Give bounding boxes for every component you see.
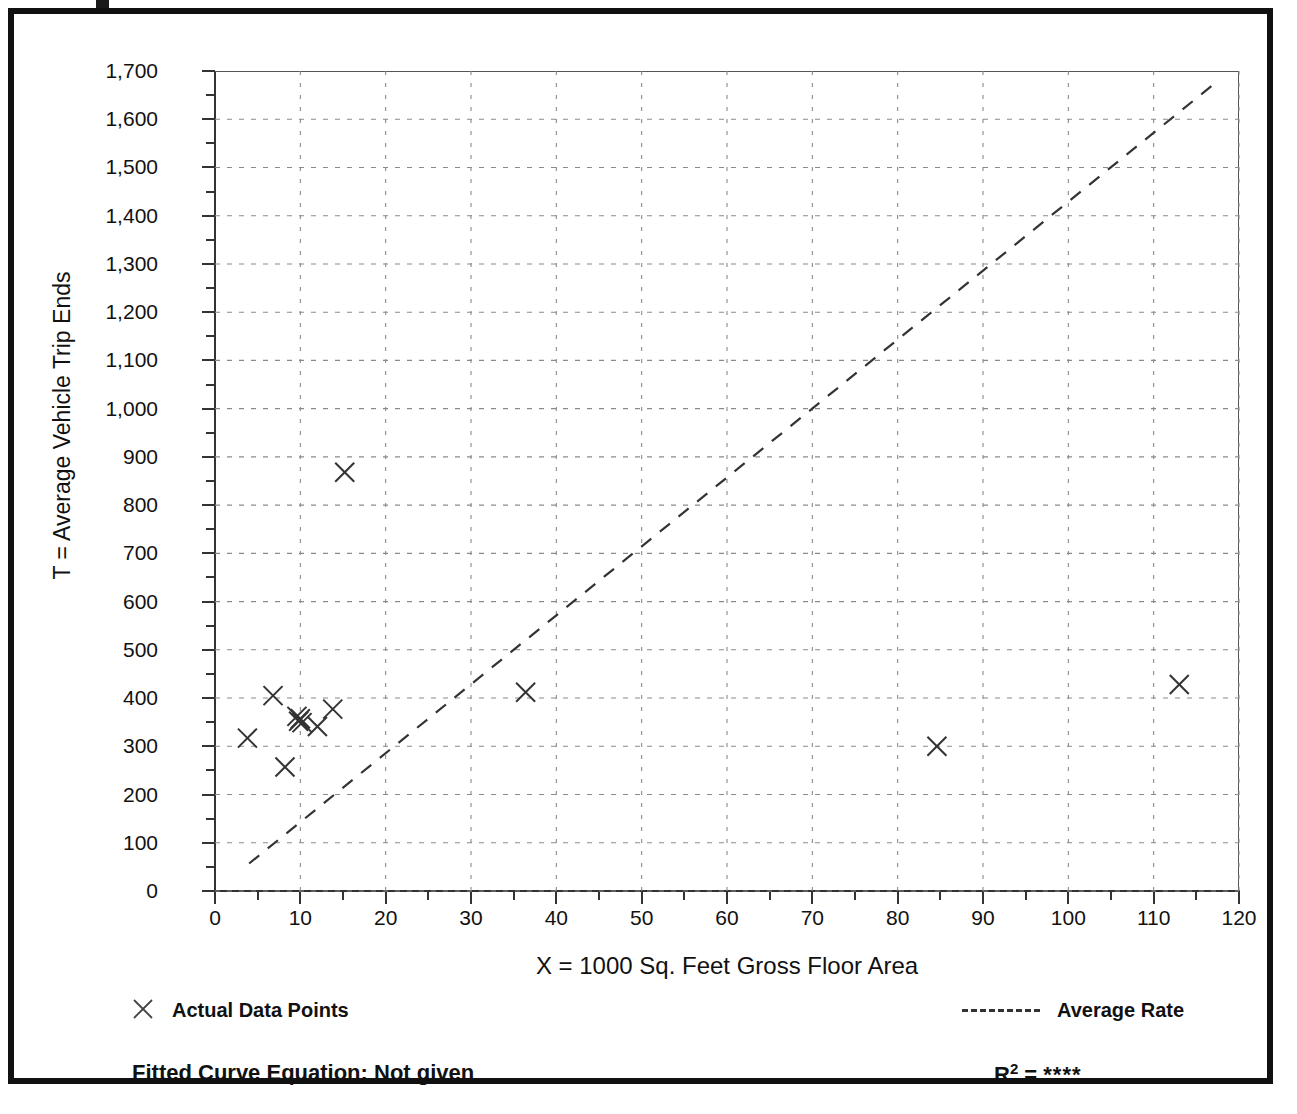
y-tick-major bbox=[202, 263, 215, 265]
plot-area bbox=[215, 71, 1239, 891]
y-tick-major bbox=[202, 552, 215, 554]
y-tick-minor bbox=[206, 480, 215, 482]
y-tick-label: 800 bbox=[68, 494, 158, 515]
data-point-marker bbox=[335, 463, 354, 482]
x-tick-major bbox=[299, 891, 301, 904]
y-tick-minor bbox=[206, 191, 215, 193]
y-tick-minor bbox=[206, 625, 215, 627]
y-tick-minor bbox=[206, 673, 215, 675]
y-tick-minor bbox=[206, 384, 215, 386]
data-point-marker bbox=[323, 700, 342, 719]
x-tick-minor bbox=[427, 891, 429, 900]
x-tick-major bbox=[1067, 891, 1069, 904]
x-tick-minor bbox=[598, 891, 600, 900]
y-tick-major bbox=[202, 408, 215, 410]
y-tick-minor bbox=[206, 866, 215, 868]
y-tick-label: 400 bbox=[68, 687, 158, 708]
figure-frame: 01002003004005006007008009001,0001,1001,… bbox=[8, 8, 1273, 1084]
x-tick-label: 40 bbox=[516, 907, 596, 928]
x-marker-icon bbox=[132, 998, 154, 1020]
x-tick-major bbox=[1153, 891, 1155, 904]
y-tick-minor bbox=[206, 287, 215, 289]
r-squared-stars: **** bbox=[1043, 1062, 1081, 1087]
x-tick-major bbox=[982, 891, 984, 904]
y-tick-major bbox=[202, 842, 215, 844]
data-point-marker bbox=[275, 758, 294, 777]
x-tick-label: 10 bbox=[260, 907, 340, 928]
y-tick-label: 1,100 bbox=[68, 349, 158, 370]
y-tick-label: 900 bbox=[68, 446, 158, 467]
y-tick-major bbox=[202, 794, 215, 796]
y-tick-minor bbox=[206, 818, 215, 820]
y-tick-minor bbox=[206, 239, 215, 241]
x-tick-label: 0 bbox=[175, 907, 255, 928]
x-tick-minor bbox=[513, 891, 515, 900]
x-tick-minor bbox=[342, 891, 344, 900]
y-tick-major bbox=[202, 118, 215, 120]
footer: Fitted Curve Equation: Not given R2 = **… bbox=[14, 1060, 1279, 1094]
data-point-marker bbox=[264, 686, 283, 705]
data-point-marker bbox=[308, 717, 327, 736]
y-tick-minor bbox=[206, 528, 215, 530]
data-point-marker bbox=[238, 729, 257, 748]
y-tick-label: 1,600 bbox=[68, 108, 158, 129]
y-tick-label: 1,300 bbox=[68, 253, 158, 274]
data-point-markers bbox=[238, 463, 1189, 777]
r-squared-exponent: 2 bbox=[1010, 1060, 1018, 1077]
y-tick-label: 0 bbox=[68, 880, 158, 901]
x-tick-major bbox=[726, 891, 728, 904]
y-tick-label: 1,000 bbox=[68, 398, 158, 419]
x-tick-major bbox=[641, 891, 643, 904]
y-tick-minor bbox=[206, 576, 215, 578]
x-tick-major bbox=[385, 891, 387, 904]
x-tick-label: 30 bbox=[431, 907, 511, 928]
y-tick-label: 500 bbox=[68, 639, 158, 660]
x-tick-minor bbox=[939, 891, 941, 900]
x-tick-major bbox=[470, 891, 472, 904]
x-tick-label: 100 bbox=[1028, 907, 1108, 928]
y-tick-label: 300 bbox=[68, 735, 158, 756]
x-tick-minor bbox=[1110, 891, 1112, 900]
y-tick-major bbox=[202, 456, 215, 458]
x-tick-minor bbox=[683, 891, 685, 900]
chart-page: 01002003004005006007008009001,0001,1001,… bbox=[0, 0, 1297, 1114]
x-tick-minor bbox=[769, 891, 771, 900]
x-tick-label: 120 bbox=[1199, 907, 1279, 928]
legend-label-actual-data-points: Actual Data Points bbox=[172, 999, 349, 1022]
y-tick-major bbox=[202, 70, 215, 72]
data-point-marker bbox=[927, 737, 946, 756]
y-tick-major bbox=[202, 649, 215, 651]
fitted-curve-equation: Fitted Curve Equation: Not given bbox=[132, 1060, 474, 1086]
x-tick-label: 60 bbox=[687, 907, 767, 928]
y-tick-minor bbox=[206, 769, 215, 771]
y-tick-major bbox=[202, 215, 215, 217]
r-squared-value: R2 = **** bbox=[994, 1060, 1082, 1088]
y-tick-label: 1,500 bbox=[68, 156, 158, 177]
legend-label-average-rate: Average Rate bbox=[1057, 999, 1184, 1022]
y-tick-major bbox=[202, 504, 215, 506]
y-tick-minor bbox=[206, 721, 215, 723]
y-tick-label: 700 bbox=[68, 542, 158, 563]
x-tick-label: 50 bbox=[602, 907, 682, 928]
y-tick-label: 600 bbox=[68, 591, 158, 612]
x-tick-label: 80 bbox=[858, 907, 938, 928]
y-tick-minor bbox=[206, 94, 215, 96]
x-tick-label: 20 bbox=[346, 907, 426, 928]
x-tick-major bbox=[811, 891, 813, 904]
y-tick-minor bbox=[206, 142, 215, 144]
x-tick-minor bbox=[1025, 891, 1027, 900]
data-point-marker bbox=[516, 683, 535, 702]
x-tick-major bbox=[555, 891, 557, 904]
plot-canvas bbox=[215, 71, 1239, 891]
y-tick-minor bbox=[206, 432, 215, 434]
x-tick-minor bbox=[257, 891, 259, 900]
y-tick-label: 1,700 bbox=[68, 60, 158, 81]
y-tick-minor bbox=[206, 335, 215, 337]
y-tick-major bbox=[202, 601, 215, 603]
r-squared-prefix: R bbox=[994, 1062, 1010, 1087]
y-tick-major bbox=[202, 745, 215, 747]
x-tick-major bbox=[897, 891, 899, 904]
y-tick-major bbox=[202, 359, 215, 361]
x-tick-major bbox=[214, 891, 216, 904]
y-tick-label: 200 bbox=[68, 784, 158, 805]
